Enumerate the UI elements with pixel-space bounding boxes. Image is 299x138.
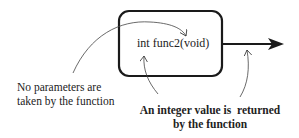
return-annotation-line2: by the function: [130, 117, 290, 131]
return-pointer-arrow: [240, 50, 248, 97]
function-diagram: int func2(void) No parameters are taken …: [0, 0, 299, 138]
return-annotation-line1: An integer value is returned: [130, 103, 290, 117]
parameters-annotation-line2: taken by the function: [17, 94, 114, 108]
parameters-annotation-line1: No parameters are: [17, 80, 114, 94]
function-signature: int func2(void): [137, 36, 209, 51]
parameters-annotation: No parameters are taken by the function: [17, 80, 114, 108]
return-annotation: An integer value is returned by the func…: [130, 103, 290, 131]
